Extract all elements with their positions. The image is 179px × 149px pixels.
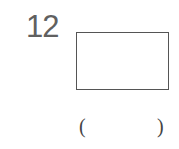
answer-open-paren: ( (79, 115, 86, 137)
question-number: 12 (26, 11, 58, 42)
answer-close-paren: ) (157, 115, 164, 137)
rectangle-figure (76, 32, 169, 90)
